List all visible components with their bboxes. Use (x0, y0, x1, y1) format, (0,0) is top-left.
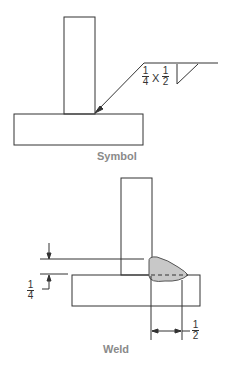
leader-line (95, 63, 218, 113)
symbol-size-1: 1 4 (142, 66, 149, 87)
fraction-numerator: 1 (163, 65, 169, 76)
arrow-left-icon (152, 329, 158, 333)
symbol-view (14, 17, 218, 145)
arrow-down-icon (47, 253, 51, 259)
arrowhead-icon (95, 106, 103, 113)
weld-view (40, 178, 200, 340)
fraction-denominator: 2 (193, 330, 199, 341)
symbol-caption: Symbol (97, 150, 137, 162)
base-plate (14, 114, 143, 145)
weld-caption: Weld (103, 343, 129, 355)
fraction-numerator: 1 (28, 279, 34, 290)
upright-plate-weld (121, 178, 152, 275)
arrow-up-icon (47, 275, 51, 281)
fraction-denominator: 4 (28, 290, 34, 301)
fraction-numerator: 1 (143, 65, 149, 76)
arrow-right-icon (175, 329, 181, 333)
times-sign: X (152, 72, 159, 84)
upright-plate (64, 17, 95, 114)
fraction-denominator: 2 (163, 76, 169, 87)
weld-bead (149, 257, 188, 282)
vertical-dimension: 1 4 (27, 280, 34, 301)
diagram-canvas (0, 0, 227, 366)
fillet-weld-symbol-icon (177, 64, 198, 84)
symbol-size-2: 1 2 (162, 66, 169, 87)
horizontal-dimension: 1 2 (192, 320, 199, 341)
fraction-numerator: 1 (193, 319, 199, 330)
fraction-denominator: 4 (143, 76, 149, 87)
